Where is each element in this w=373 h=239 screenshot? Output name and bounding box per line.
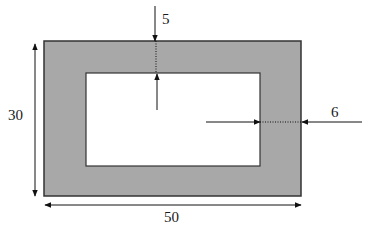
- cross-section-diagram: 5 6 30 50: [0, 0, 373, 239]
- width-label: 50: [164, 209, 179, 225]
- inner-hollow: [86, 73, 260, 166]
- height-label: 30: [8, 107, 23, 123]
- side-thickness-label: 6: [331, 104, 339, 120]
- top-thickness-label: 5: [162, 11, 170, 27]
